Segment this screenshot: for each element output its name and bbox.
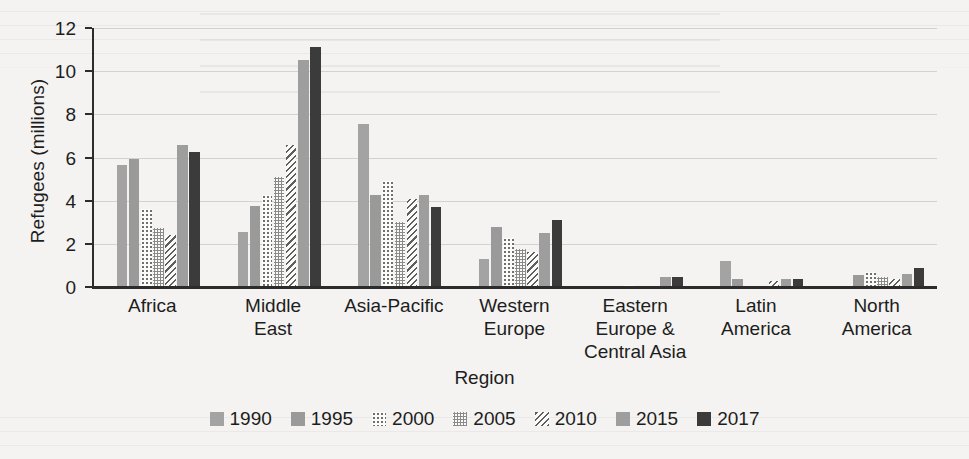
x-axis-category-labels: AfricaMiddleEastAsia-PacificWesternEurop… [92,294,937,366]
legend-item[interactable]: 2010 [535,409,597,428]
legend-swatch-icon [210,412,224,426]
bar [382,181,393,287]
x-axis-line [92,286,937,289]
legend-label: 2017 [717,409,759,428]
y-tick-label: 2 [36,235,76,254]
legend-label: 2005 [473,409,515,428]
bar-chart: Refugees (millions) 024681012 AfricaMidd… [0,0,969,459]
y-tick-mark [85,157,92,159]
bar [117,165,128,287]
y-tick-label: 12 [36,19,76,38]
y-tick-mark [85,286,92,288]
bar [129,159,140,287]
bar [141,209,152,287]
legend-item[interactable]: 1990 [210,409,272,428]
y-tick-label: 8 [36,105,76,124]
y-tick-mark [85,27,92,29]
legend-item[interactable]: 2017 [697,409,759,428]
bar [515,249,526,287]
y-tick-mark [85,243,92,245]
bar [865,272,876,287]
bar-series-container [92,28,937,287]
legend-item[interactable]: 2005 [453,409,515,428]
legend-item[interactable]: 1995 [291,409,353,428]
legend-swatch-icon [291,412,305,426]
bar [479,259,490,287]
bar [431,207,442,287]
y-tick-label: 4 [36,192,76,211]
y-tick-mark [85,70,92,72]
bar [262,195,273,287]
legend-swatch-icon [697,412,711,426]
bar [552,220,563,287]
y-tick-mark [85,200,92,202]
y-tick-label: 10 [36,62,76,81]
legend-swatch-icon [616,412,630,426]
y-tick-mark [85,113,92,115]
category-label-line: America [804,317,949,340]
bar [914,268,925,287]
bar [491,227,502,287]
legend-label: 2015 [636,409,678,428]
chart-legend: 1990199520002005201020152017 [0,409,969,428]
legend-label: 2010 [555,409,597,428]
bar [177,145,188,287]
bar [286,145,297,287]
y-tick-label: 6 [36,149,76,168]
legend-swatch-icon [372,412,386,426]
category-label-line: East [201,317,346,340]
bar [189,152,200,287]
bar [370,195,381,287]
bar [238,232,249,287]
bar [358,124,369,287]
bar [153,228,164,287]
category-label-line: Central Asia [563,340,708,363]
bar [539,233,550,287]
bar [720,261,731,287]
bar [165,235,176,287]
plot-area [92,28,937,287]
x-axis-category-label: NorthAmerica [804,294,949,340]
legend-item[interactable]: 2000 [372,409,434,428]
bar [527,252,538,287]
bar [298,60,309,287]
bar [250,206,261,287]
category-label-line: North [804,294,949,317]
bar [310,47,321,287]
legend-label: 1990 [230,409,272,428]
legend-item[interactable]: 2015 [616,409,678,428]
bar [395,222,406,287]
bar [503,238,514,287]
bar [419,195,430,287]
legend-swatch-icon [535,412,549,426]
y-tick-label: 0 [36,278,76,297]
legend-label: 1995 [311,409,353,428]
x-axis-title: Region [0,367,969,389]
legend-label: 2000 [392,409,434,428]
bar [274,177,285,287]
legend-swatch-icon [453,412,467,426]
bar [407,199,418,287]
